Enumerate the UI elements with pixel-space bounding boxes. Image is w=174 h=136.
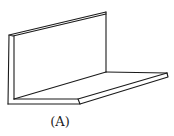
horizontal-flange-right-end: [80, 73, 168, 104]
vertical-flange-top-edge: [9, 12, 106, 36]
horizontal-flange-bottom-edge: [8, 99, 80, 104]
vertical-flange-left-edge: [8, 35, 9, 104]
figure-caption: (A): [0, 114, 120, 129]
horizontal-flange-back-edge: [106, 72, 167, 73]
